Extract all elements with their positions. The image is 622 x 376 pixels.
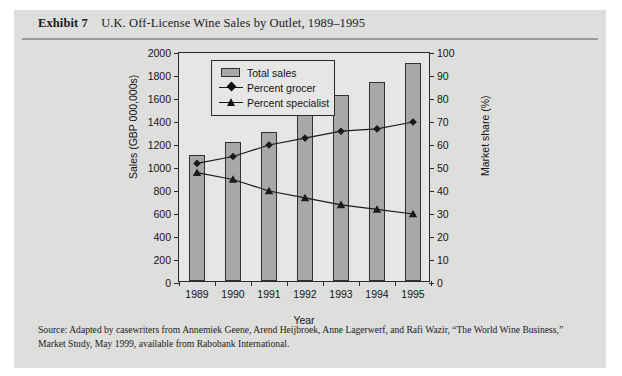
y-label-right-60: 60 [437, 139, 449, 151]
line-percent-grocer [197, 122, 413, 163]
exhibit-page: Exhibit 7 U.K. Off-License Wine Sales by… [0, 0, 622, 376]
y-label-left-800: 800 [153, 185, 171, 197]
exhibit-title: Exhibit 7 U.K. Off-License Wine Sales by… [38, 16, 365, 31]
y-label-right-70: 70 [437, 116, 449, 128]
legend-item-percent-specialist: Percent specialist [218, 95, 328, 110]
exhibit-number: 7 [82, 16, 88, 30]
x-tick-0 [179, 281, 180, 286]
x-label-1989: 1989 [185, 288, 208, 300]
y-label-left-1600: 1600 [148, 93, 171, 105]
y-tick-left-1400 [174, 122, 179, 123]
marker-diamond-1992 [301, 134, 309, 142]
y-tick-right-30 [429, 214, 434, 215]
y-tick-left-1000 [174, 168, 179, 169]
x-tick-5 [359, 281, 360, 286]
exhibit-label: Exhibit [38, 16, 78, 30]
y-tick-left-2000 [174, 53, 179, 54]
legend-label-total-sales: Total sales [244, 67, 297, 79]
plot-area: 0200400600800100012001400160018002000010… [178, 52, 430, 282]
x-label-1991: 1991 [257, 288, 280, 300]
marker-diamond-1991 [265, 141, 273, 149]
y-label-left-200: 200 [153, 254, 171, 266]
y-label-left-1800: 1800 [148, 70, 171, 82]
y-label-right-80: 80 [437, 93, 449, 105]
marker-triangle-1989 [193, 168, 201, 176]
line-percent-specialist [197, 173, 413, 214]
legend-diamond-marker-icon [218, 80, 244, 95]
y-label-left-1200: 1200 [148, 139, 171, 151]
y-tick-left-1600 [174, 99, 179, 100]
marker-diamond-1989 [193, 160, 201, 168]
legend-label-percent-specialist: Percent specialist [244, 97, 329, 109]
y-tick-right-20 [429, 237, 434, 238]
y-label-left-2000: 2000 [148, 47, 171, 59]
legend-item-total-sales: Total sales [218, 65, 328, 80]
y-tick-left-1800 [174, 76, 179, 77]
y-label-right-50: 50 [437, 162, 449, 174]
y-axis-left-title: Sales (GBP 000,000s) [127, 75, 139, 179]
y-tick-right-90 [429, 76, 434, 77]
y-label-right-30: 30 [437, 208, 449, 220]
x-label-1994: 1994 [365, 288, 388, 300]
x-tick-3 [287, 281, 288, 286]
y-tick-left-400 [174, 237, 179, 238]
source-note: Source: Adapted by casewriters from Anne… [38, 323, 586, 351]
legend-label-percent-grocer: Percent grocer [244, 82, 316, 94]
x-label-1995: 1995 [401, 288, 424, 300]
marker-diamond-1993 [337, 127, 345, 135]
marker-diamond-1994 [373, 125, 381, 133]
x-label-1993: 1993 [329, 288, 352, 300]
x-tick-6 [395, 281, 396, 286]
legend-bar-swatch-icon [218, 65, 244, 80]
x-tick-1 [215, 281, 216, 286]
y-label-left-600: 600 [153, 208, 171, 220]
y-label-left-0: 0 [165, 277, 171, 289]
exhibit-panel: Exhibit 7 U.K. Off-License Wine Sales by… [14, 10, 606, 368]
chart-legend: Total sales Percent grocer [211, 60, 335, 116]
y-label-right-10: 10 [437, 254, 449, 266]
x-tick-2 [251, 281, 252, 286]
legend-triangle-marker-icon [218, 95, 244, 110]
y-tick-right-50 [429, 168, 434, 169]
y-tick-right-70 [429, 122, 434, 123]
exhibit-title-text: U.K. Off-License Wine Sales by Outlet, 1… [101, 16, 365, 30]
marker-diamond-1990 [229, 153, 237, 161]
y-tick-right-80 [429, 99, 434, 100]
y-label-left-1400: 1400 [148, 116, 171, 128]
chart-area: Sales (GBP 000,000s) Market share (%) Ye… [14, 40, 606, 308]
y-tick-right-40 [429, 191, 434, 192]
exhibit-title-band: Exhibit 7 U.K. Off-License Wine Sales by… [14, 10, 606, 40]
y-tick-left-1200 [174, 145, 179, 146]
x-label-1990: 1990 [221, 288, 244, 300]
y-label-left-1000: 1000 [148, 162, 171, 174]
y-tick-left-200 [174, 260, 179, 261]
y-tick-right-10 [429, 260, 434, 261]
x-tick-4 [323, 281, 324, 286]
y-label-right-20: 20 [437, 231, 449, 243]
x-tick-7 [431, 281, 432, 286]
marker-diamond-1995 [409, 118, 417, 126]
y-label-left-400: 400 [153, 231, 171, 243]
y-tick-left-800 [174, 191, 179, 192]
y-tick-left-600 [174, 214, 179, 215]
y-label-right-90: 90 [437, 70, 449, 82]
y-label-right-100: 100 [437, 47, 455, 59]
legend-item-percent-grocer: Percent grocer [218, 80, 328, 95]
y-label-right-40: 40 [437, 185, 449, 197]
y-label-right-0: 0 [437, 277, 443, 289]
x-label-1992: 1992 [293, 288, 316, 300]
y-tick-right-100 [429, 53, 434, 54]
y-axis-right-title: Market share (%) [479, 95, 491, 176]
y-tick-right-60 [429, 145, 434, 146]
